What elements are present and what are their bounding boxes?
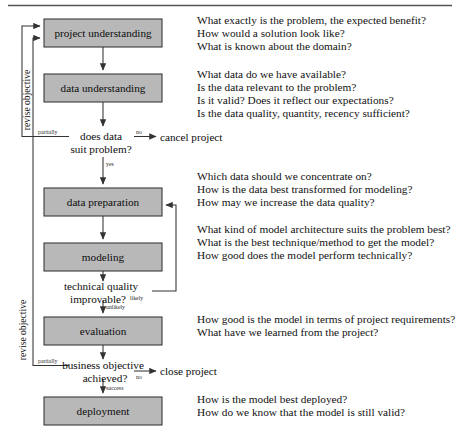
annotation-line: What is the best technique/method to get… — [197, 236, 450, 249]
annotation-line: What data do we have available? — [197, 68, 410, 81]
edge-label-unlikely: unlikely — [106, 304, 125, 310]
process-box-evaluation[interactable]: evaluation — [44, 317, 162, 345]
edge-label-no-close: no — [136, 374, 142, 380]
loop-label-revise-objective-top: revise objective — [21, 70, 32, 130]
process-box-label: data preparation — [67, 196, 140, 208]
annotation-project-understanding-questions: What exactly is the problem, the expecte… — [197, 14, 426, 53]
edge-label-success: success — [106, 385, 124, 391]
annotation-line: How good is the model in terms of projec… — [197, 313, 455, 326]
edge-label-likely: likely — [130, 295, 143, 301]
process-box-label: modeling — [82, 251, 125, 263]
decision-technical-quality-improvable: technical quality improvable? — [64, 280, 139, 305]
process-box-label: evaluation — [80, 325, 127, 337]
decision-does-data-suit-problem: does data suit problem? — [70, 130, 131, 155]
decision-line-2: achieved? — [83, 372, 128, 384]
annotation-line: What have we learned from the project? — [197, 326, 455, 339]
annotation-line: How do we know that the model is still v… — [197, 406, 405, 419]
annotation-line: Which data should we concentrate on? — [197, 170, 413, 183]
annotation-line: How is the data best transformed for mod… — [197, 183, 413, 196]
terminal-cancel-project: cancel project — [160, 131, 223, 143]
annotation-line: How is the model best deployed? — [197, 393, 405, 406]
process-box-label: data understanding — [61, 82, 146, 94]
annotation-deployment-questions: How is the model best deployed? How do w… — [197, 393, 405, 419]
process-box-modeling[interactable]: modeling — [44, 243, 162, 271]
annotation-line: How would a solution look like? — [197, 27, 426, 40]
loop-label-revise-objective-bottom: revise objective — [17, 300, 28, 360]
annotation-evaluation-questions: How good is the model in terms of projec… — [197, 313, 455, 339]
annotation-line: How good does the model perform technica… — [197, 249, 450, 262]
flowchart-canvas: project understanding data understanding… — [0, 0, 459, 442]
annotation-line: What exactly is the problem, the expecte… — [197, 14, 426, 27]
decision-business-objective-achieved: business objective achieved? — [62, 359, 144, 384]
annotation-data-understanding-questions: What data do we have available? Is the d… — [197, 68, 410, 120]
process-box-label: deployment — [77, 405, 131, 417]
annotation-line: How may we increase the data quality? — [197, 196, 413, 209]
decision-line-1: does data — [80, 130, 122, 142]
process-box-label: project understanding — [54, 27, 152, 39]
annotation-line: What kind of model architecture suits th… — [197, 223, 450, 236]
process-box-deployment[interactable]: deployment — [44, 397, 162, 425]
edge-label-no-cancel: no — [136, 129, 142, 135]
crisp-dm-process-diagram: project understanding data understanding… — [0, 0, 459, 442]
edge-label-yes: yes — [106, 161, 114, 167]
edge-label-partially-top: partially — [38, 129, 57, 135]
process-box-project-understanding[interactable]: project understanding — [44, 19, 162, 47]
annotation-line: Is the data quality, quantity, recency s… — [197, 107, 410, 120]
annotation-line: Is the data relevant to the problem? — [197, 81, 410, 94]
decision-line-1: technical quality — [64, 280, 139, 292]
decision-line-2: suit problem? — [70, 143, 131, 155]
annotation-modeling-questions: What kind of model architecture suits th… — [197, 223, 450, 262]
decision-line-1: business objective — [62, 359, 144, 371]
process-box-data-understanding[interactable]: data understanding — [44, 74, 162, 102]
annotation-line: What is known about the domain? — [197, 40, 426, 53]
annotation-data-preparation-questions: Which data should we concentrate on? How… — [197, 170, 413, 209]
terminal-close-project: close project — [160, 365, 218, 377]
annotation-line: Is it valid? Does it reflect our expecta… — [197, 94, 410, 107]
process-box-data-preparation[interactable]: data preparation — [44, 188, 162, 216]
edge-label-partially-bottom: partially — [38, 358, 57, 364]
